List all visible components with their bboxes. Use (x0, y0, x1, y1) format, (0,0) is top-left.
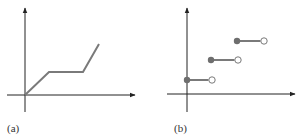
closed-endpoint-dot (184, 77, 190, 83)
step-segment (184, 77, 215, 83)
open-endpoint-dot (261, 38, 267, 44)
panel-b-step-segments (184, 38, 267, 83)
open-endpoint-dot (209, 77, 215, 83)
step-segment (234, 38, 267, 44)
figure (0, 0, 300, 140)
panel-b-label: (b) (174, 122, 187, 134)
panel-a-plot (7, 8, 135, 112)
panel-b-plot (167, 8, 295, 112)
panel-a-function-line (25, 44, 99, 95)
step-segment (208, 57, 241, 63)
open-endpoint-dot (235, 57, 241, 63)
panel-a-label: (a) (7, 122, 19, 134)
closed-endpoint-dot (234, 38, 240, 44)
closed-endpoint-dot (208, 57, 214, 63)
